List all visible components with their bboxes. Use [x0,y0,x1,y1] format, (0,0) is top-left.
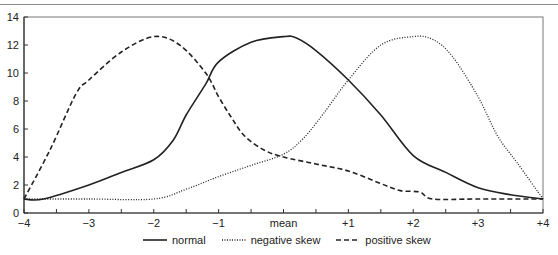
x-tick-label: +2 [407,217,420,229]
x-tick-label: +1 [342,217,355,229]
x-tick-label: −4 [18,217,31,229]
legend-label: positive skew [365,234,430,246]
x-tick-label: −2 [147,217,160,229]
y-tick-label: 4 [13,151,19,163]
y-tick-label: 14 [7,11,19,23]
y-tick-label: 12 [7,39,19,51]
dotted-line-icon [222,237,246,243]
series-lines [24,36,543,200]
x-tick-label: +4 [537,217,550,229]
legend-item-negative-skew: negative skew [222,234,321,246]
legend: normal negative skew positive skew [143,234,447,246]
y-tick-label: 8 [13,95,19,107]
plot-frame [24,17,543,213]
series-normal [24,36,543,200]
x-tick-label: +3 [472,217,485,229]
legend-item-normal: normal [143,234,206,246]
y-tick-label: 6 [13,123,19,135]
solid-line-icon [143,237,167,243]
axes: 02468101214−4−3−2−1mean+1+2+3+4 [7,11,550,229]
series-positive-skew [24,36,543,199]
legend-label: negative skew [251,234,321,246]
x-tick-label: −1 [212,217,225,229]
series-negative-skew [24,36,543,200]
x-tick-label: −3 [83,217,96,229]
legend-item-positive-skew: positive skew [336,234,430,246]
x-tick-label: mean [270,217,298,229]
legend-label: normal [172,234,206,246]
y-tick-label: 10 [7,67,19,79]
chart-plot: 02468101214−4−3−2−1mean+1+2+3+4 [0,0,558,255]
dashed-line-icon [336,237,360,243]
y-tick-label: 2 [13,179,19,191]
